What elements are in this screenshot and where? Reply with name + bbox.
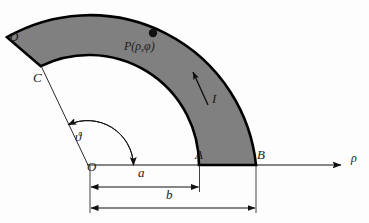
field-point-dot: [149, 29, 157, 37]
angle-label: ϑ: [75, 130, 81, 143]
dimension-label-a: a: [138, 166, 145, 179]
annular-sector-diagram: [0, 0, 369, 223]
field-point-label: P(ρ,φ): [124, 40, 155, 52]
figure-container: D C O A B P(ρ,φ) I ϑ ρ a b: [0, 0, 369, 223]
annular-sector-shape: [7, 15, 256, 165]
annulus-body: [7, 15, 256, 165]
point-label-D: D: [9, 30, 18, 43]
rho-axis-label: ρ: [351, 152, 357, 164]
point-label-C: C: [33, 71, 42, 84]
point-label-O: O: [87, 160, 96, 173]
field-point-group: [149, 29, 157, 37]
dimension-label-b: b: [166, 188, 173, 201]
point-label-B: B: [257, 148, 265, 161]
radius-line-OC: [42, 67, 89, 165]
current-label: I: [212, 92, 216, 105]
point-label-A: A: [195, 148, 203, 161]
inner-radius-construction-line: [42, 67, 89, 165]
dimension-extension-lines: [90, 166, 256, 213]
